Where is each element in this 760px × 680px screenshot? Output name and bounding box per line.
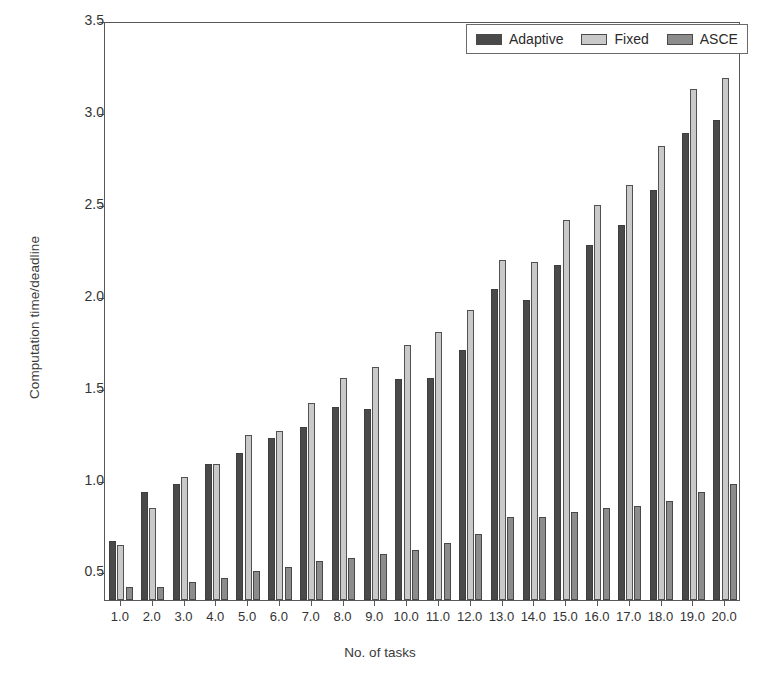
bar-fixed-18.0 [658, 146, 665, 600]
bar-adaptive-4.0 [205, 464, 212, 600]
bar-fixed-20.0 [722, 78, 729, 600]
bar-asce-14.0 [539, 517, 546, 600]
bar-adaptive-19.0 [682, 133, 689, 600]
bar-fixed-1.0 [117, 545, 124, 600]
x-axis-title: No. of tasks [0, 645, 760, 660]
chart-legend: Adaptive Fixed ASCE [466, 24, 748, 54]
x-tick-label: 20.0 [698, 609, 750, 624]
bar-fixed-13.0 [499, 260, 506, 600]
x-tick-mark [247, 601, 248, 606]
x-tick-mark [565, 601, 566, 606]
bar-fixed-16.0 [594, 205, 601, 600]
x-tick-mark [343, 601, 344, 606]
x-tick-mark [661, 601, 662, 606]
bar-chart: Computation time/deadline 0.51.01.52.02.… [0, 0, 760, 680]
bar-adaptive-15.0 [554, 265, 561, 600]
bar-fixed-8.0 [340, 378, 347, 600]
bar-asce-8.0 [348, 558, 355, 600]
bar-asce-10.0 [412, 550, 419, 600]
legend-swatch-adaptive [476, 34, 502, 45]
bar-asce-3.0 [189, 582, 196, 600]
bar-adaptive-12.0 [459, 350, 466, 600]
bar-asce-7.0 [316, 561, 323, 600]
x-tick-mark [438, 601, 439, 606]
bar-fixed-12.0 [467, 310, 474, 600]
x-tick-mark [184, 601, 185, 606]
bar-adaptive-10.0 [395, 379, 402, 600]
bar-asce-19.0 [698, 492, 705, 600]
x-tick-mark [470, 601, 471, 606]
legend-label-fixed: Fixed [614, 31, 648, 47]
bar-adaptive-17.0 [618, 225, 625, 600]
x-tick-mark [374, 601, 375, 606]
bar-adaptive-18.0 [650, 190, 657, 600]
y-tick-label: 2.0 [40, 288, 104, 304]
bar-fixed-2.0 [149, 508, 156, 600]
x-tick-mark [279, 601, 280, 606]
plot-area [104, 22, 740, 601]
legend-item-asce: ASCE [667, 31, 738, 47]
bar-asce-6.0 [285, 567, 292, 600]
x-tick-mark [120, 601, 121, 606]
bar-adaptive-13.0 [491, 289, 498, 600]
bar-asce-16.0 [603, 508, 610, 600]
bar-fixed-5.0 [245, 435, 252, 600]
y-tick-label: 3.5 [40, 12, 104, 28]
legend-item-adaptive: Adaptive [476, 31, 563, 47]
bar-asce-13.0 [507, 517, 514, 600]
x-tick-mark [215, 601, 216, 606]
bar-asce-18.0 [666, 501, 673, 600]
bar-asce-11.0 [444, 543, 451, 600]
bar-adaptive-6.0 [268, 438, 275, 600]
bar-fixed-10.0 [404, 345, 411, 600]
bar-adaptive-1.0 [109, 541, 116, 600]
bar-fixed-15.0 [563, 220, 570, 600]
bar-fixed-17.0 [626, 185, 633, 600]
bar-asce-12.0 [475, 534, 482, 600]
bar-asce-4.0 [221, 578, 228, 600]
bar-adaptive-11.0 [427, 378, 434, 600]
bar-asce-20.0 [730, 484, 737, 600]
x-tick-mark [152, 601, 153, 606]
bar-asce-9.0 [380, 554, 387, 600]
legend-item-fixed: Fixed [581, 31, 648, 47]
bar-adaptive-16.0 [586, 245, 593, 600]
legend-swatch-fixed [581, 34, 607, 45]
legend-label-asce: ASCE [700, 31, 738, 47]
x-tick-mark [597, 601, 598, 606]
bar-fixed-3.0 [181, 477, 188, 600]
y-tick-label: 3.0 [40, 104, 104, 120]
bar-fixed-11.0 [435, 332, 442, 600]
bar-adaptive-9.0 [364, 409, 371, 600]
bar-fixed-6.0 [276, 431, 283, 600]
x-tick-mark [406, 601, 407, 606]
x-tick-mark [629, 601, 630, 606]
x-tick-mark [311, 601, 312, 606]
x-tick-mark [502, 601, 503, 606]
y-tick-label: 1.0 [40, 472, 104, 488]
bar-fixed-9.0 [372, 367, 379, 600]
y-tick-label: 1.5 [40, 380, 104, 396]
y-tick-label: 2.5 [40, 196, 104, 212]
bar-asce-5.0 [253, 571, 260, 600]
bar-fixed-4.0 [213, 464, 220, 600]
bar-adaptive-7.0 [300, 427, 307, 600]
bar-asce-17.0 [634, 506, 641, 600]
bar-asce-1.0 [126, 587, 133, 600]
y-axis-title: Computation time/deadline [27, 188, 42, 448]
bar-adaptive-14.0 [523, 300, 530, 600]
legend-label-adaptive: Adaptive [509, 31, 563, 47]
bar-adaptive-3.0 [173, 484, 180, 600]
bar-fixed-14.0 [531, 262, 538, 600]
bar-adaptive-8.0 [332, 407, 339, 600]
bar-fixed-19.0 [690, 89, 697, 600]
y-tick-label: 0.5 [40, 563, 104, 579]
bar-adaptive-20.0 [713, 120, 720, 600]
bar-asce-2.0 [157, 587, 164, 600]
bar-adaptive-5.0 [236, 453, 243, 600]
legend-swatch-asce [667, 34, 693, 45]
x-tick-mark [692, 601, 693, 606]
bar-fixed-7.0 [308, 403, 315, 600]
bar-adaptive-2.0 [141, 492, 148, 600]
x-tick-mark [724, 601, 725, 606]
